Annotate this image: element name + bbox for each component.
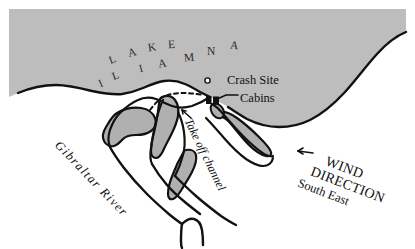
location-map: L A K E I L I A M N A Crash Site Cabins … [0, 0, 415, 249]
lake-letter: E [168, 39, 176, 51]
lake-letter: N [207, 46, 215, 58]
lake-letter: M [184, 52, 195, 64]
lake-letter: K [147, 41, 157, 54]
crash-site-circle-icon [205, 78, 210, 83]
river-branch-left-arm [181, 224, 182, 248]
lake-letter: A [229, 40, 238, 52]
lake-letter: A [157, 57, 167, 70]
